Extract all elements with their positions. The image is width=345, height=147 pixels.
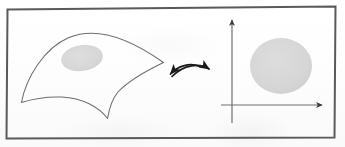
- shaded-patch: [59, 42, 104, 74]
- coordinate-plane: [221, 20, 322, 123]
- manifold-surface: [22, 33, 164, 118]
- manifold-to-chart-diagram: [0, 0, 345, 147]
- figure-page: Scanned textbook figure: a curved surfac…: [0, 0, 345, 147]
- arrow-shaft-right: [172, 65, 209, 76]
- shaded-disk: [250, 38, 312, 94]
- double-headed-arrow: [171, 65, 210, 77]
